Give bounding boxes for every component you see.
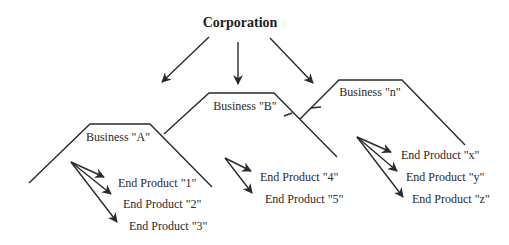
arrow-to-product-4 — [225, 158, 251, 171]
corporation-diagram: Corporation Business "n" Business "B" Bu… — [0, 0, 509, 245]
arrow-to-business-a — [162, 37, 209, 82]
business-b-label: Business "B" — [213, 99, 277, 113]
arrow-to-product-z — [357, 137, 403, 197]
product-1-label: End Product "1" — [118, 176, 197, 190]
product-3-label: End Product "3" — [129, 219, 208, 233]
business-n-label: Business "n" — [339, 85, 401, 99]
corporation-label: Corporation — [203, 15, 278, 30]
business-a-label: Business "A" — [86, 130, 150, 144]
product-x-label: End Product "x" — [401, 148, 480, 162]
arrow-to-product-5 — [225, 158, 252, 193]
product-4-label: End Product "4" — [260, 170, 339, 184]
product-2-label: End Product "2" — [123, 197, 202, 211]
business-n-tick — [311, 107, 321, 108]
product-5-label: End Product "5" — [265, 192, 344, 206]
arrow-to-product-3 — [71, 162, 117, 222]
product-y-label: End Product "y" — [406, 170, 485, 184]
arrow-to-product-y — [357, 137, 397, 171]
arrow-to-business-n — [270, 38, 313, 83]
diagram-canvas: Corporation Business "n" Business "B" Bu… — [0, 0, 509, 245]
product-z-label: End Product "z" — [412, 192, 490, 206]
business-b-tick — [284, 113, 292, 116]
